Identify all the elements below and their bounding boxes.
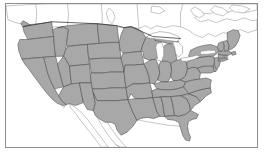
state-ct[interactable] [218, 54, 223, 58]
state-me[interactable] [227, 30, 240, 51]
state-ks[interactable] [90, 72, 126, 89]
state-vt[interactable] [217, 41, 224, 51]
cape-cod[interactable] [231, 51, 236, 55]
state-nd[interactable] [97, 24, 119, 44]
united-states-map[interactable] [6, 4, 257, 147]
state-or[interactable] [18, 37, 56, 60]
state-ri[interactable] [224, 55, 227, 58]
map-figure [0, 0, 267, 160]
state-ar[interactable] [126, 83, 153, 100]
state-in[interactable] [158, 61, 172, 82]
state-co[interactable] [69, 64, 91, 84]
long-island[interactable] [218, 58, 228, 61]
state-ok[interactable] [92, 88, 128, 101]
us-states-layer[interactable] [18, 21, 240, 141]
state-ne[interactable] [89, 58, 124, 73]
lake-michigan [156, 42, 164, 61]
lake-ontario [200, 50, 215, 54]
map-frame [5, 3, 258, 148]
state-sd[interactable] [87, 42, 121, 59]
